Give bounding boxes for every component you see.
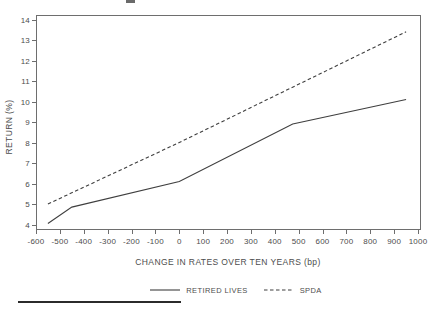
x-tick-label: 500 (292, 237, 306, 246)
x-tick-label: 400 (268, 237, 282, 246)
y-tick-mark (32, 163, 36, 164)
x-tick-label: 600 (316, 237, 330, 246)
y-tick-label: 13 (8, 36, 30, 45)
x-tick-mark (323, 230, 324, 234)
x-tick-label: -300 (99, 237, 116, 246)
y-tick-mark (32, 61, 36, 62)
y-tick-label: 5 (8, 200, 30, 209)
x-tick-mark (108, 230, 109, 234)
y-tick-label: 4 (8, 220, 30, 229)
x-axis-title: CHANGE IN RATES OVER TEN YEARS (bp) (36, 257, 420, 267)
x-tick-label: 700 (339, 237, 353, 246)
y-tick-mark (32, 143, 36, 144)
y-tick-mark (32, 81, 36, 82)
x-tick-mark (36, 230, 37, 234)
x-tick-mark (132, 230, 133, 234)
x-tick-mark (203, 230, 204, 234)
legend-solid-line-sample (150, 287, 180, 293)
spda-line (48, 32, 406, 204)
x-tick-mark (227, 230, 228, 234)
x-tick-mark (299, 230, 300, 234)
x-tick-mark (251, 230, 252, 234)
x-tick-label: -100 (147, 237, 164, 246)
y-tick-mark (32, 184, 36, 185)
x-tick-label: -200 (123, 237, 140, 246)
x-tick-mark (179, 230, 180, 234)
return-vs-rate-change-chart: -600-500-400-300-200-1000100200300400500… (0, 0, 432, 310)
y-tick-mark (32, 225, 36, 226)
y-tick-mark (32, 20, 36, 21)
legend-item-retired-lives: RETIRED LIVES (150, 286, 247, 295)
screenshot-root: -600-500-400-300-200-1000100200300400500… (0, 0, 432, 310)
x-tick-label: 1000 (409, 237, 428, 246)
y-tick-label: 7 (8, 159, 30, 168)
x-tick-mark (275, 230, 276, 234)
x-tick-mark (370, 230, 371, 234)
x-tick-mark (155, 230, 156, 234)
y-tick-label: 6 (8, 179, 30, 188)
x-tick-label: -500 (51, 237, 68, 246)
y-tick-mark (32, 102, 36, 103)
x-tick-label: -400 (75, 237, 92, 246)
legend-label: SPDA (300, 286, 322, 295)
y-axis-title: RETURN (%) (4, 100, 14, 155)
x-tick-label: 200 (220, 237, 234, 246)
x-tick-mark (60, 230, 61, 234)
plot-frame (37, 16, 421, 230)
y-tick-label: 14 (8, 15, 30, 24)
x-tick-mark (418, 230, 419, 234)
legend: RETIRED LIVESSPDA (0, 283, 432, 297)
y-tick-label: 11 (8, 77, 30, 86)
legend-dashed-line-sample (264, 287, 294, 293)
x-tick-label: 900 (387, 237, 401, 246)
x-tick-label: 800 (363, 237, 377, 246)
x-tick-label: -600 (28, 237, 45, 246)
legend-label: RETIRED LIVES (186, 286, 247, 295)
x-tick-mark (84, 230, 85, 234)
x-tick-label: 100 (196, 237, 210, 246)
y-tick-mark (32, 204, 36, 205)
plot-area (36, 15, 422, 231)
y-tick-label: 12 (8, 56, 30, 65)
y-tick-mark (32, 40, 36, 41)
x-tick-label: 300 (244, 237, 258, 246)
legend-item-spda: SPDA (264, 286, 322, 295)
x-tick-mark (346, 230, 347, 234)
x-tick-label: 0 (177, 237, 182, 246)
retired-lives-line (48, 100, 406, 224)
bottom-rule (18, 301, 181, 303)
x-tick-mark (394, 230, 395, 234)
y-tick-mark (32, 122, 36, 123)
